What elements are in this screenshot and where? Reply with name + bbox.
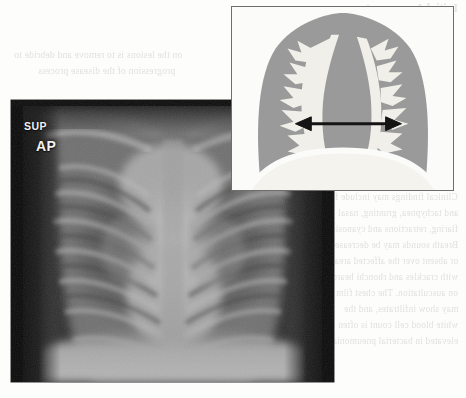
ghost-right-line: flaring, retractions and cyanosis. <box>329 224 458 234</box>
ghost-right-line: white blood cell count is often <box>338 320 458 330</box>
ghost-right-line: on auscultation. The chest film <box>336 288 458 298</box>
cardiothoracic-diagram <box>232 7 453 190</box>
schematic-inset-panel <box>231 6 454 191</box>
ghost-right-line: Breath sounds may be decreased <box>330 240 458 250</box>
ghost-right-line: and tachypnea, grunting, nasal <box>338 208 458 218</box>
ghost-right-line: or absent over the affected area, <box>332 256 458 266</box>
ghost-left-line: on the lesions is to remove and debride … <box>14 49 182 60</box>
ghost-right-line: Clinical findings may include fever <box>318 192 458 202</box>
ghost-right-line: with crackles and rhonchi heard <box>332 272 458 282</box>
ghost-left-line: progression of the disease process <box>38 65 175 76</box>
ghost-right-line: elevated in bacterial pneumonia. <box>330 336 458 346</box>
ghost-right-line: may show infiltrates, and the <box>344 304 458 314</box>
figure-page: Initial Assessment on the lesions is to … <box>0 0 466 398</box>
